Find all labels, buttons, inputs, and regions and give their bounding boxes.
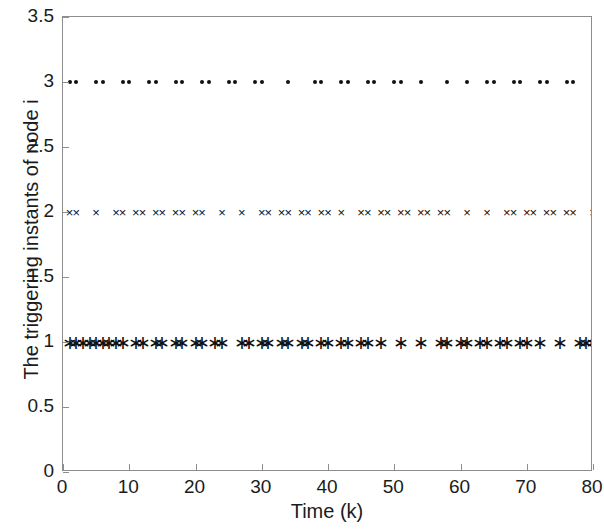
data-marker-cross: × [92, 206, 100, 219]
data-marker-dot [233, 80, 237, 84]
data-marker-dot [492, 80, 496, 84]
y-axis-tick [63, 82, 69, 83]
data-marker-cross: × [72, 206, 80, 219]
data-marker-cross: × [589, 206, 591, 219]
data-marker-dot [339, 80, 343, 84]
data-marker-cross: × [463, 206, 471, 219]
data-marker-dot [101, 80, 105, 84]
plot-area: ∗∗∗∗∗∗∗∗∗∗∗∗∗∗∗∗∗∗∗∗∗∗∗∗∗∗∗∗∗∗∗∗∗∗∗∗∗∗∗∗… [62, 16, 592, 471]
x-axis-tick [593, 464, 594, 470]
y-axis-tick [63, 212, 69, 213]
data-marker-dot [465, 80, 469, 84]
data-marker-dot [286, 80, 290, 84]
data-marker-cross: × [483, 206, 491, 219]
y-axis-tick [63, 472, 69, 473]
data-marker-dot [313, 80, 317, 84]
data-marker-dot [154, 80, 158, 84]
x-axis-tick [129, 464, 130, 470]
data-marker-cross: × [119, 206, 127, 219]
x-tick-label: 40 [316, 476, 337, 498]
y-axis-label: The triggering instants of node i [20, 0, 43, 485]
y-axis-tick [63, 342, 69, 343]
x-tick-label: 80 [581, 476, 602, 498]
data-marker-dot [485, 80, 489, 84]
data-marker-dot [565, 80, 569, 84]
data-marker-dot [253, 80, 257, 84]
y-tick-label: 3 [43, 70, 54, 92]
x-tick-label: 60 [449, 476, 470, 498]
x-tick-label: 10 [118, 476, 139, 498]
data-marker-asterisk: ∗ [552, 333, 568, 352]
data-marker-dot [127, 80, 131, 84]
data-marker-cross: × [364, 206, 372, 219]
x-tick-label: 30 [250, 476, 271, 498]
data-marker-cross: × [569, 206, 577, 219]
data-marker-cross: × [510, 206, 518, 219]
data-marker-dot [346, 80, 350, 84]
x-tick-label: 20 [184, 476, 205, 498]
data-marker-dot [399, 80, 403, 84]
data-marker-dot [180, 80, 184, 84]
data-marker-cross: × [159, 206, 167, 219]
x-tick-label: 70 [515, 476, 536, 498]
data-marker-cross: × [238, 206, 246, 219]
x-axis-tick [196, 464, 197, 470]
data-marker-cross: × [324, 206, 332, 219]
data-marker-dot [445, 80, 449, 84]
y-tick-label: 0 [43, 460, 54, 482]
data-marker-asterisk: ∗ [413, 333, 429, 352]
data-marker-cross: × [443, 206, 451, 219]
data-marker-cross: × [265, 206, 273, 219]
data-marker-dot [74, 80, 78, 84]
data-marker-dot [372, 80, 376, 84]
x-axis-tick [394, 464, 395, 470]
data-marker-dot [319, 80, 323, 84]
data-marker-dot [227, 80, 231, 84]
data-marker-cross: × [178, 206, 186, 219]
data-marker-cross: × [139, 206, 147, 219]
data-marker-asterisk: ∗ [393, 333, 409, 352]
data-marker-cross: × [384, 206, 392, 219]
data-marker-asterisk: ∗ [585, 333, 591, 352]
x-axis-label: Time (k) [62, 500, 592, 523]
data-marker-cross: × [218, 206, 226, 219]
data-marker-dot [94, 80, 98, 84]
data-marker-dot [200, 80, 204, 84]
x-tick-label: 0 [57, 476, 68, 498]
data-marker-dot [121, 80, 125, 84]
data-marker-cross: × [424, 206, 432, 219]
data-marker-asterisk: ∗ [214, 333, 230, 352]
x-axis-tick [527, 464, 528, 470]
data-layer: ∗∗∗∗∗∗∗∗∗∗∗∗∗∗∗∗∗∗∗∗∗∗∗∗∗∗∗∗∗∗∗∗∗∗∗∗∗∗∗∗… [63, 17, 591, 470]
x-axis-tick [63, 464, 64, 470]
data-marker-dot [545, 80, 549, 84]
y-tick-label: 2 [43, 200, 54, 222]
data-marker-dot [512, 80, 516, 84]
y-axis-tick [63, 277, 69, 278]
data-marker-cross: × [404, 206, 412, 219]
data-marker-cross: × [549, 206, 557, 219]
x-tick-label: 50 [383, 476, 404, 498]
data-marker-dot [571, 80, 575, 84]
y-axis-tick [63, 17, 69, 18]
data-marker-cross: × [284, 206, 292, 219]
data-marker-cross: × [198, 206, 206, 219]
data-marker-cross: × [304, 206, 312, 219]
figure-canvas: 00.511.522.533.5 The triggering instants… [0, 0, 604, 529]
data-marker-asterisk: ∗ [373, 333, 389, 352]
data-marker-dot [260, 80, 264, 84]
data-marker-cross: × [337, 206, 345, 219]
x-axis-tick [461, 464, 462, 470]
y-axis-tick [63, 407, 69, 408]
data-marker-dot [419, 80, 423, 84]
y-tick-label: 1 [43, 330, 54, 352]
x-axis-tick [262, 464, 263, 470]
data-marker-dot [366, 80, 370, 84]
y-axis-tick [63, 147, 69, 148]
data-marker-dot [538, 80, 542, 84]
data-marker-asterisk: ∗ [532, 333, 548, 352]
data-marker-cross: × [530, 206, 538, 219]
x-axis-tick [328, 464, 329, 470]
data-marker-dot [518, 80, 522, 84]
data-marker-dot [147, 80, 151, 84]
